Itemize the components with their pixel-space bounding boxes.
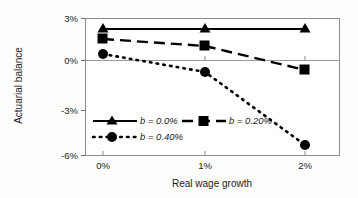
y-axis-title: Actuarial balance (13, 26, 24, 146)
y-axis-title-text: Actuarial balance (13, 47, 24, 124)
plot-frame (86, 19, 340, 156)
y-tick-label: 0% (64, 55, 78, 66)
legend-label-b-000: b = 0.0% (140, 115, 178, 126)
y-tick-neg3: -3% (42, 105, 78, 116)
y-tick-label: -6% (61, 150, 78, 161)
x-tick-1: 1% (185, 160, 225, 171)
legend-text: b = 0.40% (140, 131, 183, 142)
legend-text: b = 0.20% (229, 115, 272, 126)
x-tick-2: 2% (285, 160, 325, 171)
circle-icon (107, 132, 117, 142)
legend-text: b = 0.0% (140, 115, 178, 126)
legend-label-b-040: b = 0.40% (140, 131, 183, 142)
x-tick-label: 0% (96, 160, 110, 171)
legend-label-b-020: b = 0.20% (229, 115, 272, 126)
actuarial-balance-chart: Actuarial balance 3% 0% -3% -6% 0% 1% 2%… (0, 0, 358, 198)
y-tick-0: 0% (46, 55, 78, 66)
y-tick-3: 3% (46, 13, 78, 24)
y-tick-label: -3% (61, 105, 78, 116)
x-tick-0: 0% (83, 160, 123, 171)
x-axis-title: Real wage growth (85, 178, 339, 189)
y-tick-label: 3% (64, 13, 78, 24)
x-axis-title-text: Real wage growth (172, 178, 252, 189)
y-tick-neg6: -6% (42, 150, 78, 161)
square-icon (199, 116, 209, 126)
x-tick-label: 1% (198, 160, 212, 171)
x-tick-label: 2% (298, 160, 312, 171)
y-axis-ticks (81, 19, 86, 156)
